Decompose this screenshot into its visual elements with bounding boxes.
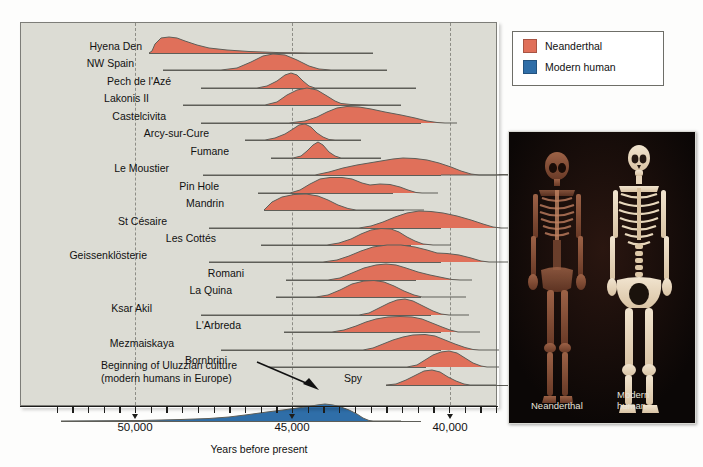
axis-tick <box>480 407 481 413</box>
axis-tick <box>57 407 58 413</box>
x-axis-title: Years before present <box>20 443 498 455</box>
axis-tick-label: 40,000 <box>432 421 467 433</box>
axis-tick <box>308 407 309 413</box>
axis-tick <box>119 407 120 413</box>
axis-tick <box>323 407 324 413</box>
skeleton-illustration <box>509 132 696 424</box>
axis-tick <box>496 407 497 413</box>
photo-caption-neanderthal: Neanderthal <box>531 400 611 411</box>
uluzzian-arrow-icon <box>255 358 345 394</box>
photo-caption-modern-line1: Modern <box>617 389 687 400</box>
axis-tick <box>465 407 466 413</box>
axis-tick-caret <box>132 414 138 419</box>
axis-tick-caret <box>447 414 453 419</box>
skeleton-comparison-photo: Neanderthal Modern human <box>508 131 696 424</box>
axis-tick <box>135 407 136 413</box>
uluzzian-annotation-line1: Beginning of Uluzzian culture <box>101 359 237 372</box>
axis-tick <box>276 407 277 413</box>
axis-tick <box>261 407 262 413</box>
axis-tick-label: 45,000 <box>274 421 309 433</box>
legend-item-modern-human: Modern human <box>523 60 663 74</box>
legend-swatch-modern-human <box>523 60 537 74</box>
uluzzian-annotation-line2: (modern humans in Europe) <box>101 372 237 385</box>
axis-tick <box>229 407 230 413</box>
axis-tick <box>151 407 152 413</box>
ridge-curve <box>21 400 501 426</box>
site-label: Spy <box>344 372 362 384</box>
axis-tick <box>433 407 434 413</box>
axis-tick <box>449 407 450 413</box>
axis-tick <box>292 407 293 413</box>
axis-tick <box>166 407 167 413</box>
axis-tick <box>104 407 105 413</box>
axis-tick <box>245 407 246 413</box>
x-axis <box>20 406 498 407</box>
legend: Neanderthal Modern human <box>512 31 664 86</box>
axis-tick <box>371 407 372 413</box>
axis-tick <box>418 407 419 413</box>
legend-label-neanderthal: Neanderthal <box>545 40 602 52</box>
axis-tick <box>88 407 89 413</box>
legend-label-modern-human: Modern human <box>545 61 616 73</box>
legend-item-neanderthal: Neanderthal <box>523 39 663 53</box>
uluzzian-annotation: Beginning of Uluzzian culture (modern hu… <box>101 359 237 385</box>
ridge-row <box>21 400 496 426</box>
axis-tick <box>182 407 183 413</box>
axis-tick-caret <box>289 414 295 419</box>
plot-panel: Hyena DenNW SpainPech de l'AzéLakonis II… <box>20 22 497 406</box>
photo-caption-modern-human: Modern human <box>617 389 687 411</box>
figure-root: Hyena DenNW SpainPech de l'AzéLakonis II… <box>0 0 703 467</box>
axis-tick <box>198 407 199 413</box>
axis-tick <box>402 407 403 413</box>
axis-tick <box>355 407 356 413</box>
legend-swatch-neanderthal <box>523 39 537 53</box>
axis-tick <box>386 407 387 413</box>
axis-tick-label: 50,000 <box>117 421 152 433</box>
axis-tick <box>339 407 340 413</box>
photo-caption-modern-line2: human <box>617 400 687 411</box>
axis-tick <box>72 407 73 413</box>
axis-tick <box>214 407 215 413</box>
ridge-rows: Hyena DenNW SpainPech de l'AzéLakonis II… <box>21 23 496 405</box>
